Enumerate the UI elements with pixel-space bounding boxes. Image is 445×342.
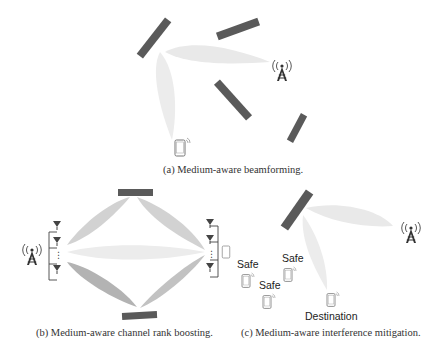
antenna-array-left: ⋮ — [49, 221, 63, 280]
cell-tower-icon — [273, 60, 292, 81]
beam-b-lower-right — [140, 255, 205, 308]
panel-a: (a) Medium-aware beamforming. — [137, 17, 307, 176]
figure-canvas: (a) Medium-aware beamforming. ⋮ ⋮ — [0, 0, 445, 342]
beam-b-lower-left — [67, 262, 137, 307]
beam-c-to-destination — [303, 215, 327, 290]
beam-b-upper-right — [137, 197, 205, 250]
label-safe-1: Safe — [237, 258, 259, 270]
beam-a-to-tower — [165, 45, 270, 63]
label-destination: Destination — [305, 310, 358, 322]
surface-a2 — [216, 18, 260, 41]
antenna-ellipsis: ⋮ — [207, 249, 216, 259]
antenna-icon — [53, 221, 61, 230]
surface-b-bottom — [122, 311, 157, 320]
phone-icon — [222, 246, 230, 258]
caption-a: (a) Medium-aware beamforming. — [163, 164, 303, 176]
surface-a4 — [287, 113, 307, 143]
phone-icon — [242, 273, 254, 287]
phone-icon — [284, 267, 296, 281]
antenna-array-right: ⋮ — [206, 219, 218, 277]
destination-phone-icon — [327, 292, 339, 306]
beam-c-to-tower — [306, 205, 393, 226]
caption-c: (c) Medium-aware interference mitigation… — [241, 327, 421, 339]
panel-b: ⋮ ⋮ (b) Medium-aware channel rank boosti… — [23, 189, 230, 339]
caption-b: (b) Medium-aware channel rank boosting. — [36, 327, 213, 339]
antenna-icon — [53, 265, 61, 274]
beam-a-to-phone — [156, 52, 175, 140]
surface-b-top — [118, 189, 153, 196]
antenna-ellipsis: ⋮ — [54, 250, 63, 260]
phone-icon — [175, 138, 190, 156]
antenna-icon — [53, 237, 61, 246]
antenna-icon — [206, 235, 214, 244]
cell-tower-icon — [23, 244, 42, 265]
antenna-icon — [206, 219, 214, 228]
antenna-icon — [206, 263, 214, 272]
surface-a3 — [214, 79, 252, 120]
phone-icon — [263, 294, 275, 308]
beam-b-middle — [67, 245, 205, 259]
label-safe-2: Safe — [282, 252, 304, 264]
cell-tower-icon — [402, 222, 421, 243]
beam-b-upper-left — [67, 197, 130, 245]
label-safe-3: Safe — [259, 279, 281, 291]
panel-c: Safe Safe Safe Destination (c) Medium-aw… — [237, 189, 421, 339]
